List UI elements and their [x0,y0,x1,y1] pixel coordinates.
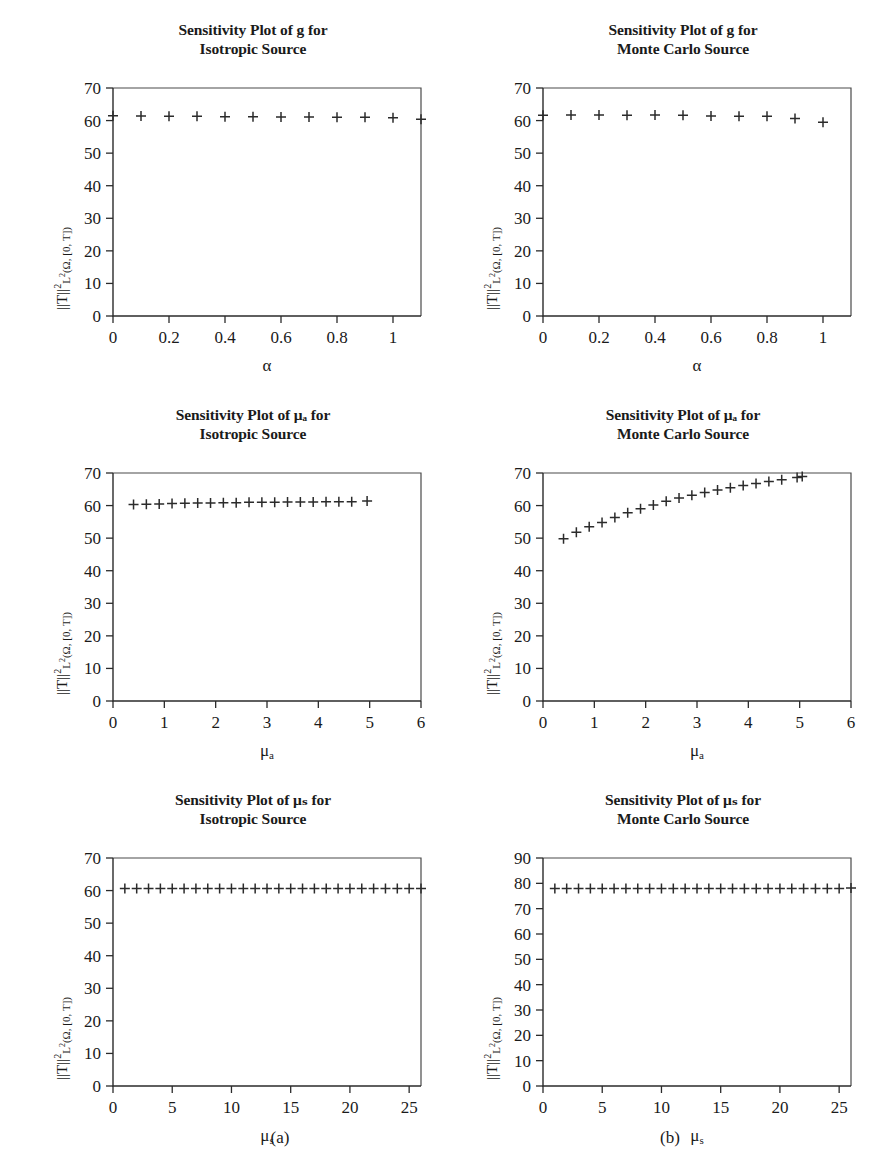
data-point-marker [274,884,284,894]
x-tick-label: 25 [831,1098,848,1117]
chart-panel-mua-isotropic: Sensitivity Plot of μₐ forIsotropic Sour… [18,403,448,788]
y-axis-space-subscript: L2(Ω, [0, T]) [490,612,502,669]
y-axis-domain: (Ω, [0, T]) [490,612,502,658]
data-series-mus-isotropic [120,884,426,894]
data-point-marker [692,883,702,893]
chart-panel-mua-montecarlo: Sensitivity Plot of μₐ forMonte Carlo So… [448,403,878,788]
y-axis-norm-symbol: ||T|| [54,1059,70,1080]
y-tick-label: 60 [514,925,531,944]
x-axis-subscript: a [699,749,704,761]
y-axis-norm-symbol: ||T|| [54,289,70,310]
data-point-marker [179,884,189,894]
data-point-marker [777,475,787,485]
y-tick-label: 40 [514,976,531,995]
y-tick-label: 60 [514,497,531,516]
y-tick-label: 40 [514,562,531,581]
x-tick-label: 6 [417,713,426,732]
data-point-marker [283,497,293,507]
y-axis-title-mus-isotropic: ||T||2L2(Ω, [0, T]) [52,997,71,1080]
y-axis-space-symbol: L [60,662,72,669]
y-tick-label: 40 [84,177,101,196]
x-tick-label: 0.8 [326,328,347,347]
y-axis-norm-symbol: ||T|| [54,674,70,695]
y-tick-label: 70 [84,849,101,868]
panel-letter-b: (b) [640,1128,700,1148]
data-point-marker [559,534,569,544]
y-tick-label: 70 [84,464,101,483]
x-tick-label: 2 [211,713,220,732]
data-point-marker [215,884,225,894]
sensitivity-plots-figure: Sensitivity Plot of g forIsotropic Sourc… [0,0,885,1175]
data-point-marker [309,884,319,894]
data-point-marker [218,498,228,508]
x-tick-label: 20 [341,1098,358,1117]
data-point-marker [668,883,678,893]
data-point-marker [566,110,576,120]
x-tick-label: 4 [314,713,323,732]
y-axis-space-exponent: 2 [488,273,497,277]
x-tick-label: 3 [693,713,702,732]
plot-axes [543,88,851,316]
x-tick-label: 1 [590,713,599,732]
y-tick-label: 0 [93,692,102,711]
y-tick-label: 40 [84,562,101,581]
data-point-marker [739,883,749,893]
x-tick-label: 0.6 [700,328,721,347]
data-point-marker [136,111,146,121]
data-point-marker [597,883,607,893]
data-point-marker [286,884,296,894]
data-point-marker [674,493,684,503]
y-tick-label: 20 [514,1026,531,1045]
data-point-marker [734,111,744,121]
x-tick-label: 0 [109,328,118,347]
y-axis-space-symbol: L [60,1047,72,1054]
data-point-marker [762,111,772,121]
data-point-marker [206,498,216,508]
chart-panel-mus-isotropic: Sensitivity Plot of μₛ forIsotropic Sour… [18,788,448,1173]
data-point-marker [728,883,738,893]
x-tick-label: 0 [109,713,118,732]
y-axis-norm-symbol: ||T|| [484,289,500,310]
data-point-marker [231,498,241,508]
data-point-marker [192,111,202,121]
data-point-marker [388,113,398,123]
data-point-marker [144,884,154,894]
y-tick-label: 80 [514,874,531,893]
data-point-marker [155,884,165,894]
data-point-marker [810,883,820,893]
y-tick-label: 10 [84,274,101,293]
y-tick-label: 60 [84,112,101,131]
data-point-marker [334,497,344,507]
x-tick-label: 4 [744,713,753,732]
data-point-marker [818,117,828,127]
y-tick-label: 70 [514,900,531,919]
y-tick-label: 50 [514,144,531,163]
data-point-marker [321,497,331,507]
data-point-marker [751,478,761,488]
data-point-marker [191,884,201,894]
data-point-marker [661,496,671,506]
y-axis-exponent: 2 [482,1054,493,1059]
data-point-marker [108,111,118,121]
data-point-marker [362,496,372,506]
data-series-mua-montecarlo [559,472,808,544]
x-tick-label: 0.2 [158,328,179,347]
y-axis-space-subscript: L2(Ω, [0, T]) [490,997,502,1054]
x-tick-label: 0.4 [214,328,236,347]
y-axis-norm-symbol: ||T|| [484,1059,500,1080]
y-tick-label: 60 [84,497,101,516]
y-tick-label: 0 [93,1077,102,1096]
data-point-marker [574,883,584,893]
y-tick-label: 40 [514,177,531,196]
x-tick-label: 5 [365,713,374,732]
x-axis-title-g-isotropic: α [227,356,307,376]
data-point-marker [203,884,213,894]
y-tick-label: 10 [84,659,101,678]
plot-area-mua-montecarlo: 0102030405060700123456 [448,403,878,788]
x-axis-subscript: s [699,1134,703,1146]
data-point-marker [706,111,716,121]
data-point-marker [636,504,646,514]
y-axis-domain: (Ω, [0, T]) [490,227,502,273]
x-tick-label: 10 [223,1098,240,1117]
y-tick-label: 50 [84,144,101,163]
